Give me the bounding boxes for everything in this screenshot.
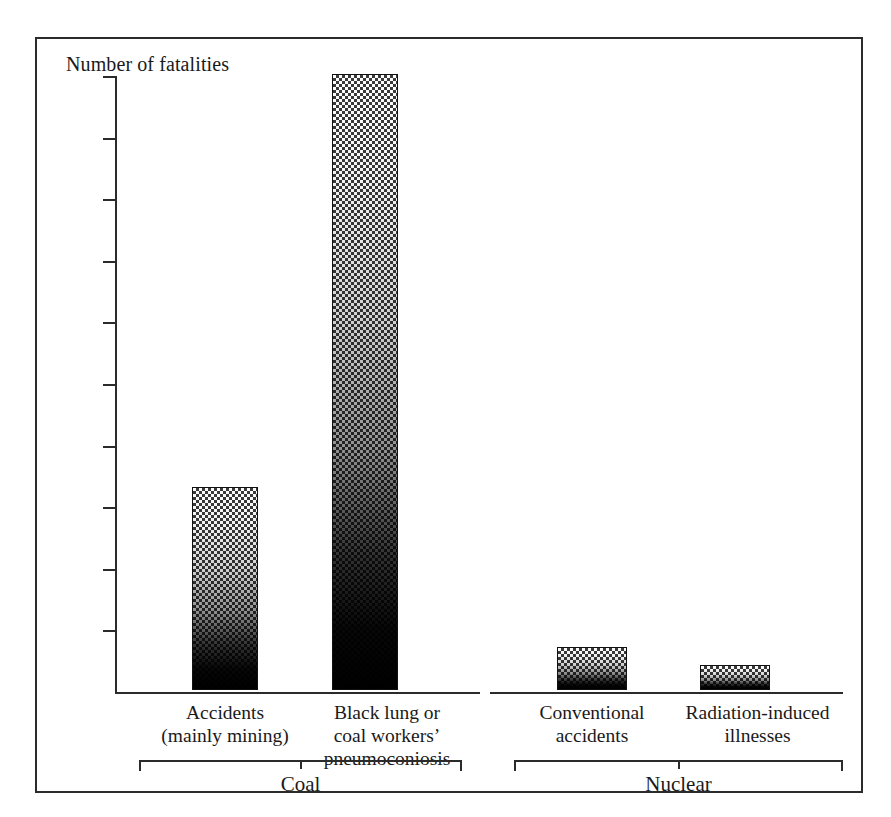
x-axis-baseline-coal [115, 692, 480, 694]
brace-right-tip [841, 760, 843, 771]
y-tick-300 [103, 507, 117, 509]
chart-figure-frame: Number of fatalities 1,000 900 800 700 6… [35, 37, 863, 793]
x-category-label-radiation-illnesses: Radiation-induced illnesses [670, 701, 845, 747]
group-label-nuclear: Nuclear [514, 772, 843, 797]
bar-radiation-induced-illnesses[interactable] [700, 665, 770, 690]
bar-black-lung-pneumoconiosis[interactable] [332, 74, 398, 690]
y-tick-100 [103, 630, 117, 632]
group-brace-nuclear [514, 760, 843, 772]
y-tick-400 [103, 446, 117, 448]
group-brace-coal [139, 760, 462, 772]
bar-conventional-accidents[interactable] [557, 647, 627, 690]
x-category-label-conventional-accidents: Conventional accidents [513, 701, 671, 747]
y-tick-200 [103, 569, 117, 571]
y-tick-800 [103, 199, 117, 201]
brace-center-tick [300, 760, 302, 769]
x-category-label-accidents: Accidents (mainly mining) [140, 701, 310, 747]
brace-center-tick [678, 760, 680, 769]
bar-fill-texture [193, 488, 257, 689]
bar-accidents-mainly-mining[interactable] [192, 487, 258, 690]
bar-fill-texture [333, 75, 397, 689]
y-tick-500 [103, 384, 117, 386]
bar-fill-texture [558, 648, 626, 689]
y-tick-600 [103, 322, 117, 324]
brace-left-tip [514, 760, 516, 771]
y-axis-tick-labels: 1,000 900 800 700 600 500 400 300 200 10… [37, 39, 99, 795]
y-tick-700 [103, 261, 117, 263]
brace-left-tip [139, 760, 141, 771]
x-axis-baseline-nuclear [490, 692, 843, 694]
plot-area: 1,000 900 800 700 600 500 400 300 200 10… [37, 39, 865, 795]
y-tick-1000 [103, 76, 117, 78]
brace-right-tip [460, 760, 462, 771]
group-label-coal: Coal [139, 772, 462, 797]
bar-fill-texture [701, 666, 769, 689]
y-tick-900 [103, 138, 117, 140]
